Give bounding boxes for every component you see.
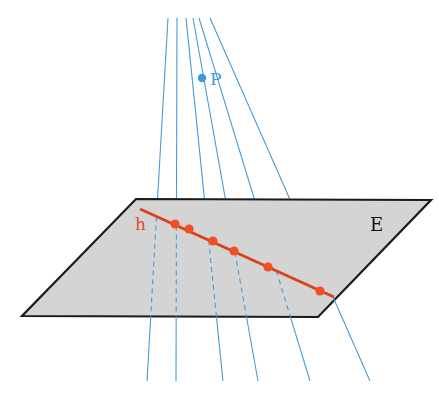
label-h: h: [135, 214, 146, 234]
ray-5-lower: [290, 317, 310, 381]
ray-2-upper: [176, 18, 177, 226]
intersection-point-1: [170, 219, 179, 228]
ray-4-lower: [246, 317, 258, 381]
ray-6-lower: [334, 300, 370, 381]
label-p: P: [210, 69, 221, 89]
intersection-point-2: [184, 224, 193, 233]
intersection-point-3: [208, 236, 217, 245]
ray-1-upper: [157, 18, 168, 216]
intersection-point-6: [315, 286, 324, 295]
label-e: E: [370, 214, 383, 235]
intersection-point-5: [263, 262, 272, 271]
projection-diagram: P h E: [0, 0, 439, 393]
intersection-point-4: [229, 246, 238, 255]
ray-1-lower: [147, 316, 151, 381]
ray-3-lower: [216, 317, 223, 381]
point-p-dot: [198, 74, 206, 82]
